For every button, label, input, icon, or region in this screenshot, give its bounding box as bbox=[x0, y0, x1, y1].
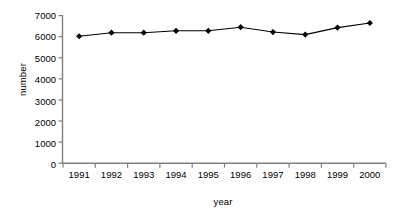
x-axis-title: year bbox=[60, 196, 386, 207]
data-point-marker bbox=[173, 28, 179, 34]
data-point-marker bbox=[334, 25, 340, 31]
data-point-marker bbox=[302, 31, 308, 37]
data-point-marker bbox=[205, 28, 211, 34]
x-tick-label: 1994 bbox=[160, 170, 192, 180]
x-tick-label: 1993 bbox=[128, 170, 160, 180]
data-point-marker bbox=[367, 20, 373, 26]
line-chart: number 7000 6000 5000 4000 3000 2000 100… bbox=[0, 0, 401, 221]
x-tick-label: 1995 bbox=[192, 170, 224, 180]
x-tick-label: 1992 bbox=[95, 170, 127, 180]
data-point-marker bbox=[238, 24, 244, 30]
x-tick-label: 1997 bbox=[257, 170, 289, 180]
x-tick-label: 2000 bbox=[354, 170, 386, 180]
x-tick-label: 1991 bbox=[63, 170, 95, 180]
data-point-marker bbox=[108, 30, 114, 36]
data-point-marker bbox=[270, 29, 276, 35]
plot-area bbox=[0, 0, 401, 221]
x-tick-label: 1998 bbox=[289, 170, 321, 180]
data-point-marker bbox=[76, 33, 82, 39]
axis-lines bbox=[62, 15, 386, 164]
data-series-line bbox=[79, 23, 370, 36]
x-tick-label: 1999 bbox=[322, 170, 354, 180]
data-point-marker bbox=[141, 30, 147, 36]
x-tick-label: 1996 bbox=[225, 170, 257, 180]
